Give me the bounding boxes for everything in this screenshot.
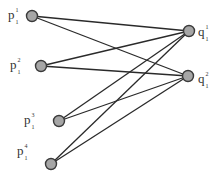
bipartite-graph-diagram: p11 p21 p31 p41 q11 q21 xyxy=(0,0,222,179)
edge-p4-q1 xyxy=(51,31,189,164)
node-p1 xyxy=(27,11,38,22)
edge-p3-q2 xyxy=(59,76,188,121)
node-p4 xyxy=(46,159,57,170)
edge-p1-q1 xyxy=(32,16,189,31)
label-p1: p11 xyxy=(8,8,19,24)
node-p3 xyxy=(54,116,65,127)
label-p2: p21 xyxy=(10,58,21,74)
graph-svg xyxy=(0,0,222,179)
edge-p4-q2 xyxy=(51,76,188,164)
nodes-group xyxy=(27,11,195,170)
node-p2 xyxy=(36,61,47,72)
label-q1: q11 xyxy=(198,25,209,41)
edge-p3-q1 xyxy=(59,31,189,121)
label-q2: q21 xyxy=(198,72,209,88)
node-q2 xyxy=(183,71,194,82)
node-q1 xyxy=(184,26,195,37)
edges-group xyxy=(32,16,189,164)
edge-p2-q1 xyxy=(41,31,189,66)
label-p3: p31 xyxy=(24,113,35,129)
label-p4: p41 xyxy=(17,144,28,160)
